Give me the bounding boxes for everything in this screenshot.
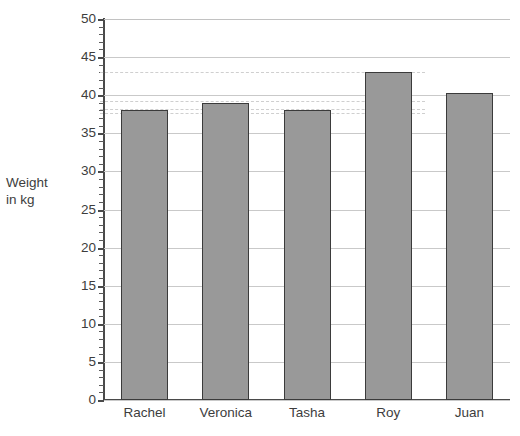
y-tick-label-15: 15 <box>60 279 96 293</box>
y-tick-label-45: 45 <box>60 50 96 64</box>
bar-tasha <box>284 110 331 400</box>
y-tick-label-0: 0 <box>60 393 96 407</box>
bar-roy <box>365 72 412 400</box>
plot-area <box>104 19 510 400</box>
x-label-tasha: Tasha <box>266 406 347 421</box>
y-tick-label-10: 10 <box>60 317 96 331</box>
y-axis-tick-labels: 50454035302520151050 <box>58 19 96 400</box>
x-label-rachel: Rachel <box>104 406 185 421</box>
bar-veronica <box>202 103 249 400</box>
x-label-roy: Roy <box>348 406 429 421</box>
gridline-50 <box>104 19 510 20</box>
y-tick-label-5: 5 <box>60 355 96 369</box>
y-tick-label-25: 25 <box>60 203 96 217</box>
clipped-title-strip <box>0 0 520 12</box>
bar-chart: Weight in kg 50454035302520151050 Rachel… <box>0 0 520 436</box>
gridline-0 <box>104 400 510 401</box>
gridline-45 <box>104 57 510 58</box>
bar-rachel <box>121 110 168 400</box>
y-tick-label-20: 20 <box>60 241 96 255</box>
x-label-juan: Juan <box>429 406 510 421</box>
bar-juan <box>446 93 493 400</box>
y-tick-label-50: 50 <box>60 12 96 26</box>
y-tick-label-40: 40 <box>60 88 96 102</box>
y-tick-label-30: 30 <box>60 164 96 178</box>
x-label-veronica: Veronica <box>185 406 266 421</box>
y-tick-label-35: 35 <box>60 126 96 140</box>
